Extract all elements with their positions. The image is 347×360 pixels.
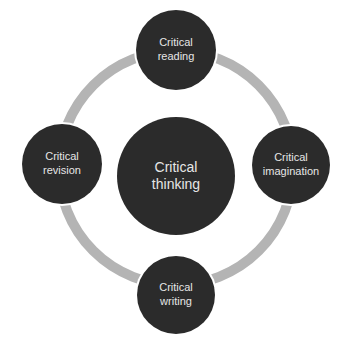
node-line1: Critical [263, 151, 319, 165]
node-line1: Critical [158, 36, 195, 50]
center-node-line1: Critical [152, 159, 200, 177]
node-line2: imagination [263, 165, 319, 179]
node-critical-revision: Critical revision [22, 124, 102, 204]
node-critical-reading: Critical reading [136, 10, 216, 90]
node-critical-imagination: Critical imagination [252, 126, 330, 204]
node-line1: Critical [159, 281, 193, 295]
node-line2: writing [159, 295, 193, 309]
center-node-line2: thinking [152, 176, 200, 194]
node-critical-writing: Critical writing [137, 256, 215, 334]
node-line2: revision [43, 164, 81, 178]
node-line2: reading [158, 50, 195, 64]
center-node-critical-thinking: Critical thinking [117, 117, 235, 235]
node-line1: Critical [43, 150, 81, 164]
